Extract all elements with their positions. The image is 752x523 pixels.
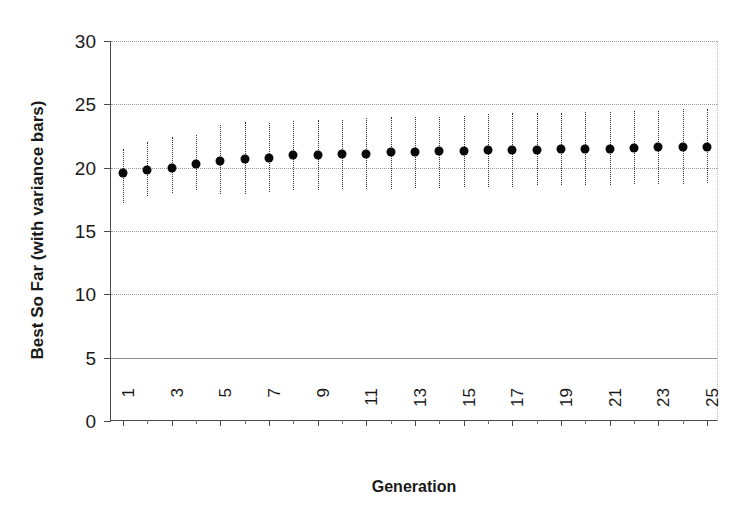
x-axis-title: Generation: [110, 478, 718, 496]
x-tick-mark: [439, 420, 440, 424]
plot-area: [110, 41, 718, 421]
gridline: [111, 104, 717, 105]
x-tick-mark: [342, 420, 343, 424]
x-tick-mark: [561, 420, 562, 426]
x-tick-mark: [269, 420, 270, 426]
data-point: [678, 143, 687, 152]
y-tick-label: 15: [52, 222, 96, 241]
data-point: [702, 142, 711, 151]
x-tick-mark: [512, 420, 513, 426]
data-point: [556, 145, 565, 154]
x-tick-label: 3: [168, 388, 185, 397]
x-tick-mark: [123, 420, 124, 426]
data-point: [581, 145, 590, 154]
data-point: [313, 151, 322, 160]
x-tick-label: 25: [703, 388, 720, 407]
data-point: [605, 144, 614, 153]
data-point: [338, 149, 347, 158]
x-tick-mark: [610, 420, 611, 426]
x-tick-mark: [464, 420, 465, 426]
x-tick-mark: [537, 420, 538, 424]
x-tick-label: 5: [217, 388, 234, 397]
x-tick-label: 13: [412, 388, 429, 407]
data-point: [532, 145, 541, 154]
data-point: [629, 144, 638, 153]
x-tick-mark: [318, 420, 319, 426]
y-tick-mark: [104, 294, 111, 295]
data-point: [435, 147, 444, 156]
data-point: [386, 148, 395, 157]
x-tick-mark: [293, 420, 294, 424]
data-point: [483, 145, 492, 154]
x-tick-mark: [172, 420, 173, 426]
x-tick-mark: [196, 420, 197, 424]
data-point: [508, 145, 517, 154]
data-point: [411, 147, 420, 156]
data-point: [362, 149, 371, 158]
x-tick-mark: [415, 420, 416, 426]
y-tick-mark: [104, 168, 111, 169]
y-tick-mark: [104, 104, 111, 105]
y-tick-mark: [104, 358, 111, 359]
x-tick-mark: [220, 420, 221, 426]
data-point: [289, 151, 298, 160]
data-point: [119, 168, 128, 177]
gridline: [111, 358, 717, 359]
y-tick-mark: [104, 421, 111, 422]
data-point: [265, 153, 274, 162]
y-tick-mark: [104, 231, 111, 232]
data-point: [143, 166, 152, 175]
x-tick-label: 21: [606, 388, 623, 407]
x-tick-label: 23: [655, 388, 672, 407]
gridline: [111, 294, 717, 295]
data-point: [459, 147, 468, 156]
x-tick-mark: [245, 420, 246, 424]
x-tick-mark: [147, 420, 148, 424]
data-point: [216, 157, 225, 166]
y-tick-label: 20: [52, 158, 96, 177]
y-tick-label: 30: [52, 32, 96, 51]
x-tick-label: 19: [557, 388, 574, 407]
data-point: [240, 154, 249, 163]
x-tick-mark: [488, 420, 489, 424]
y-tick-label: 10: [52, 285, 96, 304]
x-tick-label: 17: [509, 388, 526, 407]
x-tick-mark: [658, 420, 659, 426]
y-tick-label: 25: [52, 95, 96, 114]
x-tick-mark: [707, 420, 708, 426]
x-tick-label: 15: [460, 388, 477, 407]
x-tick-mark: [585, 420, 586, 424]
chart-figure: Best So Far (with variance bars) 0510152…: [0, 0, 752, 523]
data-point: [654, 143, 663, 152]
x-tick-mark: [683, 420, 684, 424]
data-point: [192, 159, 201, 168]
x-tick-label: 7: [266, 388, 283, 397]
x-tick-mark: [634, 420, 635, 424]
data-point: [167, 163, 176, 172]
x-tick-label: 11: [363, 388, 380, 406]
gridline: [111, 41, 717, 42]
x-tick-label: 1: [120, 388, 137, 397]
y-tick-label: 5: [52, 348, 96, 367]
y-tick-label: 0: [52, 412, 96, 431]
x-tick-mark: [366, 420, 367, 426]
gridline: [111, 168, 717, 169]
x-tick-label: 9: [314, 388, 331, 397]
x-tick-mark: [391, 420, 392, 424]
y-tick-mark: [104, 41, 111, 42]
gridline: [111, 231, 717, 232]
